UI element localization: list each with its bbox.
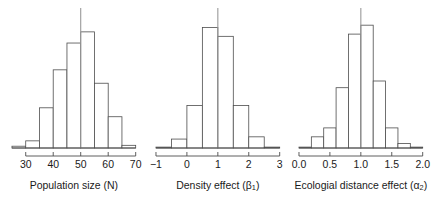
histogram-bar: [67, 43, 81, 148]
x-axis-tick-label: 2.0: [416, 159, 431, 170]
x-axis-tick-label: 30: [20, 159, 32, 170]
histogram-bar: [202, 27, 217, 148]
x-axis-title: Ecologial distance effect (α2): [295, 180, 428, 192]
histogram-bar: [26, 141, 40, 148]
histogram-bar: [324, 128, 336, 148]
x-axis-tick-label: 3: [276, 159, 282, 170]
histogram-bar: [218, 36, 233, 148]
x-axis-title: Population size (N): [30, 180, 118, 191]
histogram-bar: [312, 137, 324, 148]
histogram-bar: [386, 128, 398, 148]
histogram-bar: [171, 139, 186, 148]
histogram-bar: [39, 108, 53, 148]
histogram-bar: [81, 32, 95, 148]
x-axis-tick-label: 70: [130, 159, 142, 170]
x-axis-tick-label: 0.5: [323, 159, 338, 170]
x-axis-tick-label: 1: [215, 159, 221, 170]
histogram-bar: [336, 88, 348, 148]
histogram-bar: [398, 144, 410, 148]
histogram-ecological-distance-effect: 0.00.51.01.52.0Ecologial distance effect…: [287, 0, 431, 208]
histogram-bar: [53, 70, 67, 148]
x-axis-tick-label: 40: [47, 159, 59, 170]
panel-density-effect: −10123Density effect (β1): [144, 0, 288, 208]
x-axis-tick-label: 50: [75, 159, 87, 170]
panel-ecological-distance-effect: 0.00.51.01.52.0Ecologial distance effect…: [287, 0, 431, 208]
histogram-bar: [374, 81, 386, 148]
x-axis-tick-label: 1.0: [354, 159, 369, 170]
histogram-bar: [187, 106, 202, 148]
x-axis-tick-label: 1.5: [385, 159, 400, 170]
histogram-bar: [361, 25, 373, 148]
x-axis-title: Density effect (β1): [176, 180, 259, 192]
histogram-bar: [248, 137, 263, 148]
x-axis-tick-label: 0: [184, 159, 190, 170]
x-axis-tick-label: −1: [150, 159, 162, 170]
x-axis-tick-label: 60: [102, 159, 114, 170]
histogram-bar: [94, 83, 108, 148]
histogram-bar: [233, 106, 248, 148]
histogram-figure: 3040506070Population size (N) −10123Dens…: [0, 0, 431, 208]
histogram-density-effect: −10123Density effect (β1): [144, 0, 288, 208]
x-axis-tick-label: 2: [246, 159, 252, 170]
histogram-bar: [349, 34, 361, 148]
x-axis-tick-label: 0.0: [292, 159, 307, 170]
histogram-bar: [108, 117, 122, 148]
histogram-population-size: 3040506070Population size (N): [0, 0, 144, 208]
panel-population-size: 3040506070Population size (N): [0, 0, 144, 208]
